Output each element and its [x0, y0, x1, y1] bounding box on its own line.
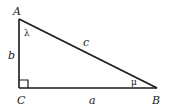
right-angle-marker	[19, 80, 28, 88]
angle-label-lambda: λ	[24, 28, 30, 38]
side-label-a: a	[89, 94, 96, 107]
side-label-b: b	[8, 49, 15, 62]
vertex-label-c: C	[17, 94, 26, 107]
right-triangle-diagram: A B C a b c λ μ	[0, 0, 173, 108]
side-label-c: c	[83, 36, 89, 49]
vertex-label-b: B	[151, 94, 160, 107]
vertex-label-a: A	[12, 5, 21, 18]
angle-label-mu: μ	[131, 77, 137, 87]
